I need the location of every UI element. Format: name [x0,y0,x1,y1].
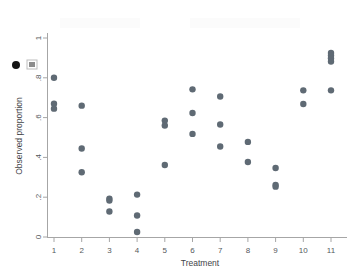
data-point [134,191,140,197]
data-point [217,121,223,127]
y-tick-label: 0 [34,234,43,239]
data-point [162,162,168,168]
data-point [134,212,140,218]
y-tick-label: .8 [34,74,43,81]
data-point [189,110,195,116]
data-points-layer [51,50,334,236]
data-point [79,169,85,175]
y-axis-title: Observed proportion [14,97,24,175]
data-point [245,159,251,165]
data-point [51,105,57,111]
x-tick-label: 1 [52,246,57,255]
data-point [189,131,195,137]
background-smudge [60,18,140,28]
x-tick-label: 10 [299,246,308,255]
x-tick-label: 9 [273,246,278,255]
x-tick-label: 11 [327,246,336,255]
data-point [134,229,140,235]
data-point [189,86,195,92]
x-axis-title: Treatment [181,258,220,268]
data-point [300,101,306,107]
x-tick-label: 3 [107,246,112,255]
data-point [300,87,306,93]
data-point [51,75,57,81]
y-tick-label: .6 [34,114,43,121]
data-point [272,183,278,189]
data-point [106,208,112,214]
y-tick-label: .4 [34,154,43,161]
x-axis-ticks: 1234567891011 [52,238,336,256]
y-tick-label: 1 [34,35,43,40]
axes-group [48,33,348,238]
plot-canvas: 0.2.4.6.81 1234567891011 Observed propor… [0,0,358,274]
data-point [328,58,334,64]
x-tick-label: 4 [135,246,140,255]
data-point [245,139,251,145]
x-tick-label: 7 [218,246,223,255]
background-smudge [190,18,300,28]
scatter-plot-figure: 0.2.4.6.81 1234567891011 Observed propor… [0,0,358,274]
x-tick-label: 8 [246,246,251,255]
data-point [79,102,85,108]
data-point [217,93,223,99]
y-tick-label: .2 [34,193,43,200]
data-point [328,87,334,93]
x-tick-label: 5 [163,246,168,255]
data-point [106,197,112,203]
stray-artifact-marker [12,60,37,69]
x-tick-label: 2 [79,246,84,255]
data-point [162,122,168,128]
x-tick-label: 6 [190,246,195,255]
data-point [217,143,223,149]
data-point [272,165,278,171]
data-point [79,145,85,151]
